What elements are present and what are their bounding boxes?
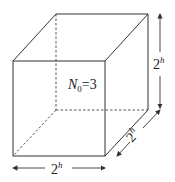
cube-diagram: N0=3 2h 2h 2h [0,0,175,182]
height-dimension: 2h [153,14,165,108]
svg-text:2h: 2h [122,125,143,145]
width-dimension: 2h [13,160,105,177]
particle-count-label: N0=3 [67,77,97,94]
depth-dimension: 2h [117,110,160,156]
front-face [13,61,105,156]
svg-text:2h: 2h [153,55,165,72]
svg-text:2h: 2h [51,160,63,177]
